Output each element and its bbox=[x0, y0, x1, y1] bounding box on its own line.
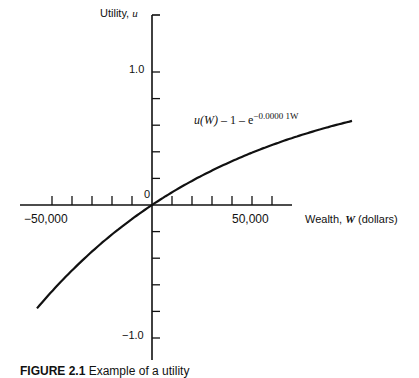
x-tick-label-50000: 50,000 bbox=[232, 212, 269, 226]
x-axis-unit: (dollars) bbox=[355, 213, 398, 225]
formula-mid: – 1 – e bbox=[218, 113, 253, 127]
caption-prefix: FIGURE 2.1 bbox=[20, 364, 85, 378]
x-axis-title-text: Wealth, bbox=[305, 213, 345, 225]
curve-formula: u(W) – 1 – e−0.0000 1W bbox=[194, 111, 298, 128]
formula-exponent: −0.0000 1W bbox=[253, 111, 298, 121]
y-tick-label-neg1: −1.0 bbox=[122, 329, 144, 341]
y-axis-title-text: Utility, bbox=[100, 7, 132, 19]
x-tick-label-neg50000: −50,000 bbox=[24, 212, 68, 226]
y-axis-var: u bbox=[132, 7, 138, 19]
y-tick-label-1: 1.0 bbox=[129, 63, 144, 75]
y-tick-label-0: 0 bbox=[144, 188, 150, 200]
formula-lhs: u(W) bbox=[194, 113, 218, 127]
figure-caption: FIGURE 2.1 Example of a utility bbox=[20, 364, 189, 378]
caption-text: Example of a utility bbox=[85, 364, 189, 378]
x-axis-title: Wealth, W (dollars) bbox=[305, 213, 398, 225]
y-axis-title: Utility, u bbox=[100, 7, 138, 19]
x-axis-var: W bbox=[345, 213, 355, 225]
